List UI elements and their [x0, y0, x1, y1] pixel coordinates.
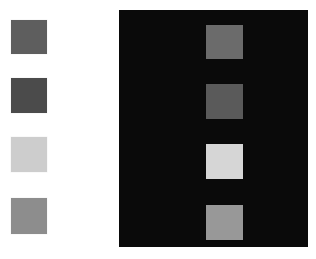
gray-patch-white-bg-patch-2: [11, 78, 47, 113]
gray-patch-black-bg-patch-4: [206, 205, 243, 240]
gray-patch-white-bg-patch-1: [11, 20, 47, 54]
gray-patch-black-bg-patch-3: [206, 144, 243, 179]
gray-patch-black-bg-patch-2: [206, 84, 243, 119]
gray-patch-black-bg-patch-1: [206, 25, 243, 59]
gray-patch-white-bg-patch-3: [11, 137, 47, 172]
figure-canvas: [0, 0, 316, 259]
gray-patch-white-bg-patch-4: [11, 198, 47, 234]
